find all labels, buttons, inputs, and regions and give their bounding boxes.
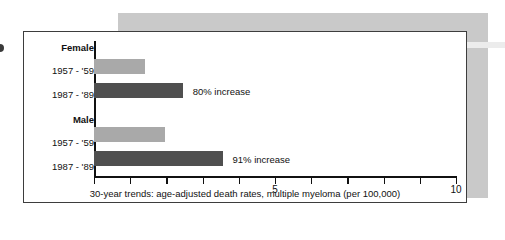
x-tick-8 xyxy=(384,178,385,184)
row-label-female-group: Female xyxy=(24,42,94,54)
x-tick-2 xyxy=(166,178,167,184)
chart-figure: Female 1957 - '59 1987 - '89 Male 1957 -… xyxy=(23,31,467,203)
x-tick-3 xyxy=(203,178,204,184)
x-tick-9 xyxy=(420,178,421,184)
x-tick-6 xyxy=(311,178,312,184)
row-label-male-1957: 1957 - '59 xyxy=(24,137,94,149)
x-tick-7 xyxy=(347,178,348,184)
x-tick-1 xyxy=(130,178,131,184)
row-label-female-1987: 1987 - '89 xyxy=(24,89,94,101)
row-label-female-1957: 1957 - '59 xyxy=(24,65,94,77)
annotation-female-increase: 80% increase xyxy=(193,86,251,97)
chart-caption: 30-year trends: age-adjusted death rates… xyxy=(24,188,466,199)
bar-male-1957 xyxy=(94,127,165,142)
annotation-male-increase: 91% increase xyxy=(233,154,291,165)
x-tick-0 xyxy=(94,178,95,184)
bar-female-1957 xyxy=(94,59,145,74)
bar-male-1987 xyxy=(94,151,223,166)
plot-area: Female 1957 - '59 1987 - '89 Male 1957 -… xyxy=(24,32,466,202)
edge-glyph-fragment xyxy=(0,44,4,52)
row-label-column: Female 1957 - '59 1987 - '89 Male 1957 -… xyxy=(24,42,94,173)
bar-female-1987 xyxy=(94,83,183,98)
row-label-male-group: Male xyxy=(24,114,94,126)
row-label-male-1987: 1987 - '89 xyxy=(24,161,94,173)
x-tick-4 xyxy=(239,178,240,184)
